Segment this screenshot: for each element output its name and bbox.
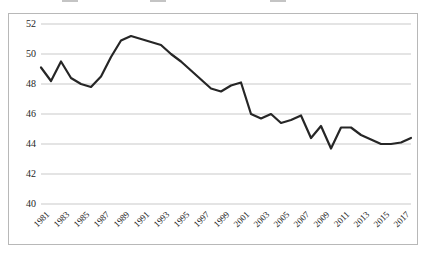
- gridlines: [41, 24, 411, 204]
- line-chart-svg: [9, 14, 419, 246]
- y-axis-tick-label: 52: [12, 19, 36, 29]
- legend-swatch-icon: [62, 0, 78, 2]
- legend-entry: [62, 0, 82, 5]
- data-series-line: [41, 36, 411, 149]
- legend-swatch-icon: [270, 0, 286, 2]
- y-axis-tick-label: 50: [12, 49, 36, 59]
- chart-legend: [0, 0, 426, 9]
- legend-entry: [150, 0, 170, 5]
- y-axis-tick-label: 48: [12, 79, 36, 89]
- legend-swatch-icon: [150, 0, 166, 2]
- y-axis-tick-label: 40: [12, 199, 36, 209]
- y-axis-tick-label: 44: [12, 139, 36, 149]
- plot-area: 40424446485052 1981198319851987198919911…: [9, 14, 419, 246]
- legend-entry: [270, 0, 290, 5]
- chart-container: 40424446485052 1981198319851987198919911…: [8, 13, 418, 245]
- y-axis-tick-label: 42: [12, 169, 36, 179]
- y-axis-tick-label: 46: [12, 109, 36, 119]
